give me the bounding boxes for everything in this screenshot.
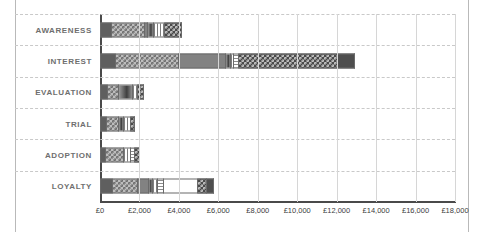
row-divider — [15, 77, 455, 78]
category-label-trial: TRIAL — [14, 119, 92, 128]
x-tick-label: £2,000 — [128, 206, 151, 215]
bar-segment[interactable] — [124, 147, 131, 162]
category-label-loyalty: LOYALTY — [14, 182, 92, 191]
category-label-interest: INTEREST — [14, 56, 92, 65]
bar-segment[interactable] — [100, 53, 116, 68]
gridline — [297, 14, 298, 202]
category-label-awareness: AWARENESS — [14, 25, 92, 34]
row-divider — [15, 45, 455, 46]
chart-row: TRIAL — [100, 108, 455, 139]
row-divider — [15, 171, 455, 172]
bar-segment[interactable] — [119, 85, 133, 100]
bar-segment[interactable] — [100, 85, 108, 100]
bar-segment[interactable] — [154, 22, 165, 37]
funnel-spend-bar-chart: AWARENESSINTERESTEVALUATIONTRIALADOPTION… — [0, 0, 480, 232]
x-tick-label: £18,000 — [441, 206, 468, 215]
x-axis-tick-labels: £0£2,000£4,000£6,000£8,000£10,000£12,000… — [0, 206, 480, 226]
stacked-bar-interest[interactable] — [100, 53, 355, 68]
bar-segment[interactable] — [106, 147, 124, 162]
stacked-bar-awareness[interactable] — [100, 22, 182, 37]
left-frame-rule — [15, 0, 16, 232]
bar-segment[interactable] — [108, 85, 119, 100]
bar-segment[interactable] — [338, 53, 356, 68]
gridline — [455, 14, 456, 202]
bar-segment[interactable] — [207, 179, 214, 194]
x-tick-label: £10,000 — [284, 206, 311, 215]
stacked-bar-loyalty[interactable] — [100, 179, 214, 194]
bar-segment[interactable] — [124, 116, 131, 131]
bar-segment[interactable] — [100, 116, 107, 131]
x-tick-label: £0 — [96, 206, 104, 215]
plot-area: AWARENESSINTERESTEVALUATIONTRIALADOPTION… — [100, 14, 455, 202]
bar-segment[interactable] — [198, 179, 208, 194]
bar-segment[interactable] — [100, 179, 113, 194]
category-label-adoption: ADOPTION — [14, 150, 92, 159]
bar-segment[interactable] — [131, 116, 136, 131]
stacked-bar-adoption[interactable] — [100, 147, 140, 162]
bar-segment[interactable] — [116, 53, 179, 68]
gridline — [258, 14, 259, 202]
chart-row: AWARENESS — [100, 14, 455, 45]
gridline — [376, 14, 377, 202]
x-tick-label: £12,000 — [323, 206, 350, 215]
bar-segment[interactable] — [164, 179, 198, 194]
x-tick-label: £6,000 — [207, 206, 230, 215]
row-divider — [15, 139, 455, 140]
x-tick-label: £4,000 — [167, 206, 190, 215]
row-divider — [15, 108, 455, 109]
bar-segment[interactable] — [100, 22, 112, 37]
bar-segment[interactable] — [107, 116, 119, 131]
chart-row: LOYALTY — [100, 171, 455, 202]
stacked-bar-trial[interactable] — [100, 116, 135, 131]
chart-row: ADOPTION — [100, 139, 455, 170]
category-label-evaluation: EVALUATION — [14, 88, 92, 97]
stacked-bar-evaluation[interactable] — [100, 85, 144, 100]
x-tick-label: £16,000 — [402, 206, 429, 215]
x-tick-label: £8,000 — [246, 206, 269, 215]
gridline — [337, 14, 338, 202]
right-frame-rule — [468, 0, 469, 232]
gridline — [416, 14, 417, 202]
x-tick-label: £14,000 — [363, 206, 390, 215]
gridline — [218, 14, 219, 202]
chart-row: EVALUATION — [100, 77, 455, 108]
bar-segment[interactable] — [239, 53, 338, 68]
chart-row: INTEREST — [100, 45, 455, 76]
gridline — [139, 14, 140, 202]
gridline — [179, 14, 180, 202]
bar-segment[interactable] — [113, 179, 139, 194]
row-divider — [15, 14, 455, 15]
